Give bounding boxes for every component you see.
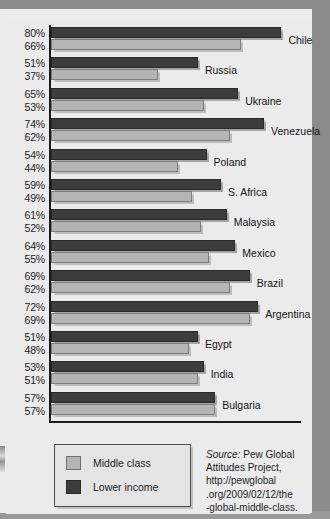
value-label-middle-class: 51% [14,374,45,387]
legend-label-middle-class: Middle class [93,457,151,469]
value-label-lower-income: 53% [14,361,45,374]
source-line-3: http://pewglobal [206,475,276,486]
bar-chart-figure: 80%66%Chile51%37%Russia65%53%Ukraine74%6… [6,20,310,514]
value-label-middle-class: 55% [14,253,45,266]
bar-lower-income [51,209,227,220]
bar-pair [51,209,227,232]
bar-middle-class [51,69,158,80]
row-value-labels: 57%57% [14,392,45,418]
country-label: Ukraine [245,95,281,107]
source-prefix: Source: [206,449,240,460]
bar-lower-income [51,27,281,38]
country-label: Poland [214,156,247,168]
bar-pair [51,149,207,172]
value-label-middle-class: 69% [14,314,45,327]
row-value-labels: 64%55% [14,240,45,266]
country-label: Argentina [265,308,310,320]
x-axis-line [49,421,301,423]
legend-item-middle-class: Middle class [66,456,151,470]
row-value-labels: 54%44% [14,149,45,175]
value-label-lower-income: 59% [14,179,45,192]
country-label: S. Africa [228,186,267,198]
page-edge-right [312,0,330,519]
value-label-middle-class: 53% [14,101,45,114]
row-value-labels: 72%69% [14,301,45,327]
bar-middle-class [51,343,189,354]
value-label-lower-income: 54% [14,149,45,162]
bar-lower-income [51,392,215,403]
bar-lower-income [51,331,198,342]
value-label-middle-class: 57% [14,405,45,418]
value-label-middle-class: 62% [14,131,45,144]
bar-lower-income [51,57,198,68]
value-label-middle-class: 49% [14,192,45,205]
row-value-labels: 80%66% [14,27,45,53]
row-value-labels: 51%48% [14,331,45,357]
row-value-labels: 69%62% [14,270,45,296]
value-label-lower-income: 72% [14,301,45,314]
bar-pair [51,179,221,202]
legend-swatch-lower-income [66,480,81,494]
bar-pair [51,88,238,111]
row-value-labels: 51%37% [14,57,45,83]
bar-middle-class [51,161,178,172]
paper-background: 80%66%Chile51%37%Russia65%53%Ukraine74%6… [0,9,312,513]
bar-lower-income [51,240,235,251]
value-label-middle-class: 66% [14,40,45,53]
country-label: Venezuela [271,125,320,137]
country-label: Egypt [205,338,232,350]
bar-middle-class [51,404,215,415]
source-note: Source: Pew Global Attitudes Project, ht… [206,448,310,514]
value-label-middle-class: 52% [14,222,45,235]
bar-pair [51,331,198,354]
bar-pair [51,361,204,384]
value-label-lower-income: 51% [14,331,45,344]
bar-lower-income [51,149,207,160]
bar-middle-class [51,282,230,293]
row-value-labels: 61%52% [14,209,45,235]
bar-lower-income [51,118,264,129]
value-label-lower-income: 51% [14,57,45,70]
value-label-middle-class: 48% [14,344,45,357]
bar-middle-class [51,130,230,141]
country-label: Russia [205,64,237,76]
row-value-labels: 74%62% [14,118,45,144]
row-value-labels: 65%53% [14,88,45,114]
bar-middle-class [51,313,250,324]
country-label: Mexico [242,247,275,259]
source-line-4: .org/2009/02/12/the [206,489,293,500]
country-label: Bulgaria [222,399,261,411]
bar-pair [51,301,258,324]
bar-lower-income [51,361,204,372]
bar-lower-income [51,270,250,281]
value-label-middle-class: 37% [14,70,45,83]
bar-pair [51,118,264,141]
source-line-5: -global-middle-class. [206,502,298,513]
country-label: India [211,368,234,380]
bar-middle-class [51,373,198,384]
bar-middle-class [51,221,201,232]
value-label-lower-income: 57% [14,392,45,405]
value-label-lower-income: 64% [14,240,45,253]
bar-pair [51,392,215,415]
value-label-middle-class: 44% [14,162,45,175]
bar-lower-income [51,88,238,99]
bar-lower-income [51,301,258,312]
country-label: Chile [288,34,312,46]
bar-pair [51,57,198,80]
plot-area: 80%66%Chile51%37%Russia65%53%Ukraine74%6… [14,23,306,425]
country-label: Brazil [257,277,283,289]
row-value-labels: 59%49% [14,179,45,205]
bar-middle-class [51,191,192,202]
value-label-lower-income: 80% [14,27,45,40]
legend-label-lower-income: Lower income [93,481,158,493]
value-label-lower-income: 69% [14,270,45,283]
source-line-2: Attitudes Project, [206,462,282,473]
bar-middle-class [51,39,241,50]
legend-item-lower-income: Lower income [66,480,158,494]
value-label-lower-income: 65% [14,88,45,101]
value-label-lower-income: 61% [14,209,45,222]
bar-middle-class [51,100,204,111]
scan-artifact [0,446,5,472]
bar-middle-class [51,252,209,263]
